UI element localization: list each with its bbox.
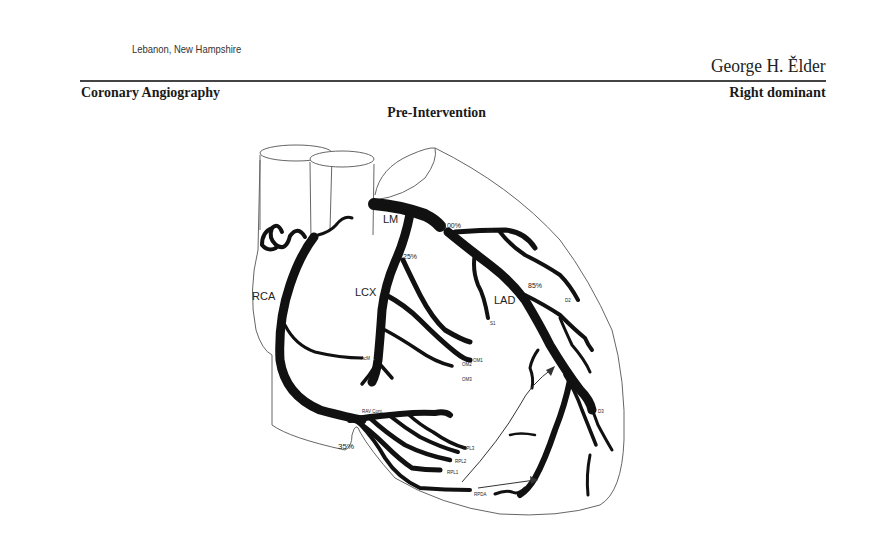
label-rpl2: RPL2	[455, 459, 467, 464]
label-s1: S1	[490, 321, 496, 326]
label-rpda: RPDA	[474, 492, 487, 497]
label-rav-cont: RAV Cont.	[362, 409, 383, 414]
rca-vessel	[280, 237, 362, 420]
label-om3: OM3	[462, 377, 472, 382]
stenosis-rca-distal: 35%	[338, 442, 354, 451]
label-d1: D1	[487, 228, 493, 233]
heart-outline	[252, 148, 624, 515]
vessels	[262, 204, 612, 495]
label-om1: OM1	[473, 358, 483, 363]
label-rpl3: RPL3	[463, 446, 475, 451]
label-acm: AcM	[361, 356, 370, 361]
label-rca: RCA	[252, 290, 276, 302]
label-lcx: LCX	[355, 286, 377, 298]
stenosis-lad-proximal: 100%	[443, 222, 461, 229]
label-lm: LM	[383, 213, 398, 225]
label-rpl1: RPL1	[447, 470, 459, 475]
coronary-diagram: RCA LM LCX LAD 100% 25% 85% 35% D1 D2 D3…	[0, 0, 878, 552]
label-d2: D2	[565, 298, 571, 303]
label-lad: LAD	[494, 294, 515, 306]
label-d3: D3	[598, 409, 604, 414]
label-om2: OM2	[462, 362, 472, 367]
stenosis-lcx-proximal: 25%	[403, 253, 417, 260]
stenosis-lad-mid: 85%	[528, 282, 542, 289]
